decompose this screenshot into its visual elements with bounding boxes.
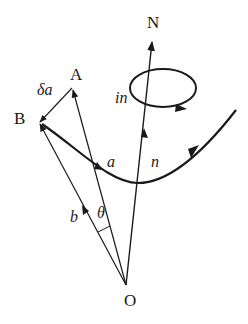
label-theta: θ xyxy=(97,204,105,221)
label-A: A xyxy=(70,65,83,84)
label-loop-in: in xyxy=(115,89,127,106)
label-b: b xyxy=(70,208,78,225)
vector-a xyxy=(73,90,126,285)
label-delta-a: δa xyxy=(37,81,52,98)
loop-arrow-icon xyxy=(175,104,187,112)
label-B: B xyxy=(14,109,25,128)
label-N: N xyxy=(147,13,159,32)
vector-diagram: N A B O δa a n b θ in xyxy=(0,0,248,324)
loop-ellipse xyxy=(130,69,196,107)
label-O: O xyxy=(124,291,136,310)
label-n: n xyxy=(151,153,159,170)
path-curve xyxy=(42,110,236,183)
label-a: a xyxy=(107,153,115,170)
vector-n xyxy=(126,42,152,285)
vector-b xyxy=(40,124,126,285)
theta-arc xyxy=(98,226,110,232)
